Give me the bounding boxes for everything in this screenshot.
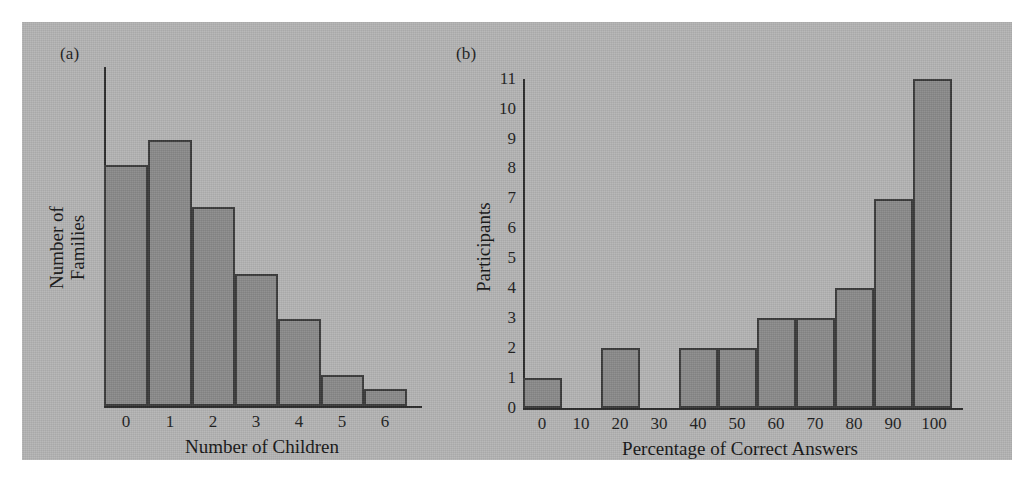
panel-b-xtick-10: 10 [573,414,590,434]
bar-b-0 [523,378,562,408]
panel-b-xtick-30: 30 [651,414,668,434]
panel-a-xtick-6: 6 [381,412,390,432]
bar-b-80 [835,288,874,408]
bar-b-100 [913,79,952,408]
panel-b-x-axis-title: Percentage of Correct Answers [622,438,858,460]
panel-a-x-axis-title: Number of Children [185,436,339,458]
bar-a-6 [364,389,407,406]
panel-b-xtick-50: 50 [729,414,746,434]
panel-b-y-axis-title: Participants [474,177,495,317]
panel-a-xtick-5: 5 [338,412,347,432]
panel-a-y-axis-title: Number ofFamilies [47,153,88,343]
panel-b-ytick-9: 9 [488,129,516,149]
panel-b-ytick-11: 11 [482,69,516,89]
panel-a-tag: (a) [60,44,79,64]
panel-a-xtick-0: 0 [122,412,131,432]
panel-a-x-axis [104,406,422,408]
panel-a-y-axis-title-line2: Families [67,215,88,280]
panel-a-xtick-3: 3 [252,412,261,432]
panel-b-xtick-80: 80 [846,414,863,434]
bar-a-2 [192,207,235,406]
panel-b-ytick-10: 10 [482,99,516,119]
panel-b-xtick-90: 90 [885,414,902,434]
panel-b-tag: (b) [456,44,476,64]
bar-b-40 [679,348,718,408]
panel-b-xtick-60: 60 [768,414,785,434]
panel-b-ytick-0: 0 [488,398,516,418]
panel-b-xtick-100: 100 [921,414,947,434]
bar-a-3 [235,274,278,406]
panel-b-ytick-8: 8 [488,158,516,178]
panel-b-bars [523,79,963,408]
bar-b-90 [874,199,913,408]
panel-b-xtick-20: 20 [612,414,629,434]
bar-b-50 [718,348,757,408]
panel-b-ytick-1: 1 [488,368,516,388]
chart-panel-a: (a) 0 1 2 3 4 5 6 Number of Children Num… [22,22,442,460]
panel-b-xtick-70: 70 [807,414,824,434]
panel-b-ytick-2: 2 [488,338,516,358]
panel-a-xtick-4: 4 [295,412,304,432]
bar-a-4 [278,319,321,406]
panel-a-y-axis-title-line1: Number of [46,206,67,289]
panel-a-bars [104,66,422,406]
bar-a-5 [321,375,364,406]
bar-b-70 [796,318,835,408]
panel-a-xtick-2: 2 [209,412,218,432]
panel-b-x-axis [523,408,963,410]
panel-b-xtick-0: 0 [538,414,547,434]
figure-panel: (a) 0 1 2 3 4 5 6 Number of Children Num… [22,22,1012,460]
bar-a-0 [104,165,148,406]
panel-b-xtick-40: 40 [690,414,707,434]
panel-a-xtick-1: 1 [166,412,175,432]
chart-panel-b: (b) 0 1 2 3 4 5 6 7 8 9 10 11 0 [422,22,1012,460]
bar-b-60 [757,318,796,408]
bar-a-1 [148,140,192,406]
bar-b-20 [601,348,640,408]
